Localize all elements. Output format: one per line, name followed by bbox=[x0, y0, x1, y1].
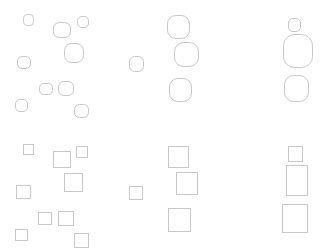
rounded-shape-1 bbox=[54, 23, 71, 38]
square-shape-0 bbox=[289, 147, 303, 162]
rounded-shape-7 bbox=[16, 100, 28, 112]
rounded-shape-1 bbox=[175, 43, 199, 67]
panel-rounded-stacked bbox=[284, 19, 313, 102]
square-shape-6 bbox=[59, 212, 74, 226]
square-shape-1 bbox=[54, 152, 71, 168]
panel-square-scattered bbox=[16, 145, 89, 248]
square-shape-0 bbox=[169, 147, 189, 168]
square-shape-3 bbox=[65, 174, 83, 192]
rounded-shape-0 bbox=[24, 15, 34, 26]
rounded-shape-4 bbox=[18, 57, 31, 69]
rounded-shape-0 bbox=[289, 19, 301, 32]
panel-square-stacked bbox=[283, 147, 308, 233]
rounded-shape-3 bbox=[170, 79, 192, 102]
rounded-shape-2 bbox=[78, 17, 89, 28]
rounded-shape-3 bbox=[65, 44, 84, 63]
square-shape-4 bbox=[17, 186, 31, 199]
rounded-shape-1 bbox=[284, 35, 313, 68]
rounded-shape-8 bbox=[75, 105, 89, 118]
panel-rounded-aligned bbox=[130, 16, 199, 102]
square-shape-1 bbox=[177, 173, 198, 195]
rounded-shape-0 bbox=[168, 16, 190, 39]
panel-square-aligned bbox=[130, 147, 198, 232]
square-shape-3 bbox=[169, 209, 191, 232]
square-shape-0 bbox=[24, 145, 34, 155]
square-shape-5 bbox=[39, 213, 52, 225]
square-shape-2 bbox=[77, 147, 88, 158]
square-shape-1 bbox=[287, 166, 308, 196]
panel-rounded-scattered bbox=[16, 15, 89, 118]
square-shape-8 bbox=[75, 234, 89, 248]
square-shape-2 bbox=[130, 187, 143, 200]
square-shape-2 bbox=[283, 205, 308, 233]
square-shape-7 bbox=[16, 230, 28, 241]
rounded-shape-2 bbox=[285, 76, 309, 102]
rounded-shape-6 bbox=[59, 82, 74, 96]
rounded-shape-2 bbox=[130, 57, 144, 72]
rounded-shape-5 bbox=[40, 84, 53, 95]
diagram-canvas bbox=[0, 0, 321, 250]
